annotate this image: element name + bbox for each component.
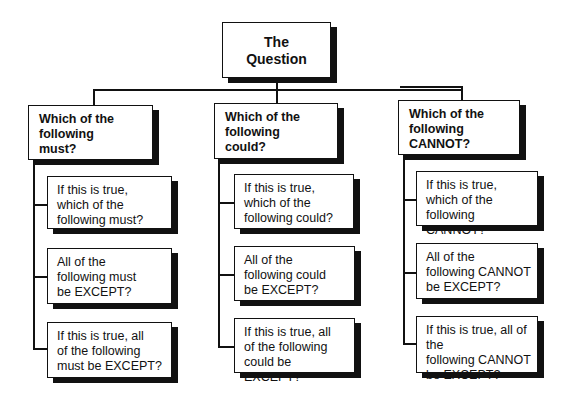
connector-spine-cannot: [403, 154, 405, 344]
question-type-tree-diagram: The Question Which of the following must…: [0, 0, 564, 399]
leaf-label: If this is true, all of the following co…: [244, 325, 350, 385]
connector-drop-cannot: [461, 86, 463, 101]
leaf-label: If this is true, which of the following …: [244, 181, 349, 226]
connector-stub-cannot-1: [403, 199, 417, 201]
connector-stub-must-1: [33, 204, 48, 206]
leaf-could-if-true-which: If this is true, which of the following …: [234, 174, 354, 229]
leaf-must-if-true-all-except: If this is true, all of the following mu…: [47, 322, 172, 378]
leaf-label: If this is true, which of the following …: [57, 183, 167, 228]
branch-header-cannot-label: Which of the following CANNOT?: [409, 107, 515, 152]
connector-stub-must-3: [33, 348, 48, 350]
leaf-label: If this is true, all of the following mu…: [57, 329, 167, 374]
branch-header-cannot: Which of the following CANNOT?: [398, 100, 520, 155]
root-node-the-question: The Question: [222, 22, 331, 78]
leaf-could-all-except: All of the following could be EXCEPT?: [234, 246, 355, 301]
branch-header-must: Which of the following must?: [28, 105, 153, 160]
connector-stub-could-1: [218, 202, 235, 204]
leaf-label: All of the following CANNOT be EXCEPT?: [426, 250, 533, 295]
branch-header-must-label: Which of the following must?: [39, 112, 148, 157]
connector-stub-cannot-3: [403, 343, 417, 345]
connector-main-bar: [93, 89, 462, 91]
leaf-cannot-if-true-which: If this is true, which of the following …: [416, 171, 538, 226]
connector-stub-must-2: [33, 276, 48, 278]
leaf-could-if-true-all-except: If this is true, all of the following co…: [234, 318, 355, 373]
leaf-must-if-true-which: If this is true, which of the following …: [47, 176, 172, 229]
connector-stub-could-2: [218, 274, 235, 276]
connector-drop-must: [93, 89, 95, 106]
leaf-cannot-all-except: All of the following CANNOT be EXCEPT?: [416, 243, 538, 299]
branch-header-could: Which of the following could?: [214, 103, 338, 159]
branch-header-could-label: Which of the following could?: [225, 110, 333, 155]
connector-spine-must: [33, 159, 35, 349]
root-node-label: The Question: [223, 34, 330, 68]
leaf-label: If this is true, which of the following …: [426, 178, 533, 238]
connector-stub-could-3: [218, 346, 235, 348]
leaf-label: All of the following could be EXCEPT?: [244, 253, 350, 298]
leaf-must-all-except: All of the following must be EXCEPT?: [47, 248, 172, 304]
leaf-label: All of the following must be EXCEPT?: [57, 255, 167, 300]
connector-drop-could: [276, 89, 278, 104]
connector-bar-right-end: [400, 86, 462, 88]
connector-spine-could: [218, 158, 220, 347]
leaf-label: If this is true, all of the following CA…: [426, 323, 533, 383]
connector-stub-cannot-2: [403, 272, 417, 274]
leaf-cannot-if-true-all-except: If this is true, all of the following CA…: [416, 316, 538, 373]
